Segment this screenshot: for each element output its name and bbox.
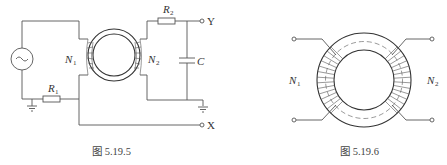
ac-source	[11, 21, 33, 99]
winding-n2-turn	[385, 47, 397, 59]
winding-n2-turn	[394, 77, 411, 78]
winding-n1-turn	[317, 82, 334, 83]
svg-text:2: 2	[170, 9, 174, 17]
winding-n1-turn	[331, 47, 343, 59]
svg-text:1: 1	[73, 59, 77, 67]
diagram-canvas: R 1 N 1 N 2 R 2	[0, 0, 447, 165]
svg-text:1: 1	[297, 80, 301, 88]
resistor-r1: R 1	[22, 82, 79, 102]
terminal-x: X	[200, 119, 215, 131]
winding-n2-turn	[385, 101, 397, 113]
capacitor-c: C	[179, 21, 205, 100]
n1-label-fig2: N	[288, 74, 297, 86]
svg-text:2: 2	[435, 80, 439, 88]
toroid-transformer: N 1 N 2	[64, 29, 160, 81]
figure-5-19-5: R 1 N 1 N 2 R 2	[11, 3, 215, 157]
wire-top-left	[22, 21, 88, 39]
windings	[317, 47, 411, 113]
caption-fig-5-19-6: 图 5.19.6	[340, 146, 379, 157]
ground-right	[198, 107, 208, 112]
c-label: C	[197, 55, 205, 67]
ground-left	[27, 99, 37, 111]
winding-n1-turn	[319, 66, 335, 71]
svg-text:Y: Y	[207, 15, 215, 27]
winding-n2-turn	[393, 66, 409, 71]
caption-fig-5-19-5: 图 5.19.5	[92, 146, 131, 157]
sine-wave-icon	[16, 57, 28, 61]
svg-text:2: 2	[156, 59, 160, 67]
figure-5-19-6: N 1 N 2 图 5.19.6	[288, 33, 439, 157]
r1-label: R	[47, 82, 55, 94]
r2-label: R	[162, 3, 170, 15]
winding-n1-turn	[331, 101, 343, 113]
n2-label-fig2: N	[426, 74, 435, 86]
resistor-r2: R 2	[140, 3, 200, 39]
terminal-y: Y	[200, 15, 215, 27]
svg-text:1: 1	[55, 88, 59, 96]
wire-bottom-right	[140, 75, 203, 106]
n2-label: N	[147, 53, 156, 65]
winding-n1-turn	[319, 89, 335, 94]
winding-n2-turn	[393, 89, 409, 94]
n1-label: N	[64, 53, 73, 65]
svg-text:X: X	[207, 119, 215, 131]
